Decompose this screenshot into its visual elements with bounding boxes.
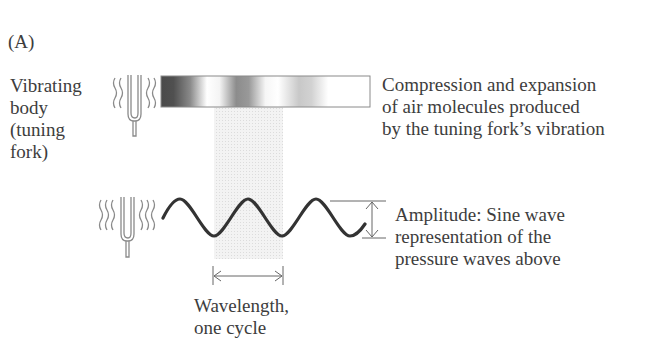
label-line: body: [10, 97, 82, 119]
vibrating-body-label: Vibrating body (tuning fork): [10, 75, 82, 163]
tuning-fork-icon: [100, 197, 155, 257]
label-line: by the tuning fork’s vibration: [382, 118, 605, 140]
panel-label: (A): [8, 31, 34, 53]
diagram-canvas: [0, 0, 648, 353]
wavelength-band: [214, 107, 283, 259]
label-line: Amplitude: Sine wave: [395, 204, 565, 226]
label-line: one cycle: [194, 317, 289, 339]
compression-label: Compression and expansion of air molecul…: [382, 74, 605, 140]
label-line: fork): [10, 141, 82, 163]
label-line: representation of the: [395, 226, 565, 248]
tuning-fork-icon: [114, 75, 156, 136]
label-line: Vibrating: [10, 75, 82, 97]
label-line: pressure waves above: [395, 248, 565, 270]
label-line: Compression and expansion: [382, 74, 605, 96]
wavelength-arrow: [213, 266, 283, 285]
label-line: (tuning: [10, 119, 82, 141]
label-line: of air molecules produced: [382, 96, 605, 118]
compression-bar: [161, 76, 370, 107]
amplitude-label: Amplitude: Sine wave representation of t…: [395, 204, 565, 270]
wavelength-label: Wavelength, one cycle: [194, 295, 289, 339]
label-line: Wavelength,: [194, 295, 289, 317]
